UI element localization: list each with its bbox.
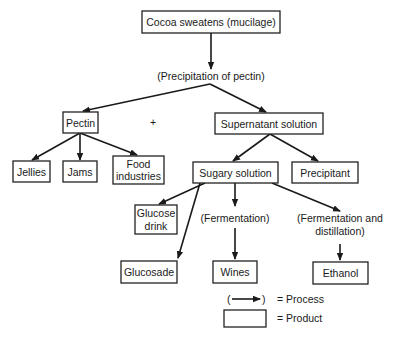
- node-label: Wines: [220, 266, 249, 278]
- edges: [32, 33, 340, 260]
- legend-process: ( ) = Process: [227, 293, 324, 305]
- node-label: Supernatant solution: [221, 118, 317, 130]
- arrow-supernatant-to-precipitant: [270, 134, 318, 161]
- node-sugary-solution: Sugary solution: [193, 162, 278, 183]
- process-ferm-distill-line2: distillation): [315, 225, 365, 237]
- arrow-pectin-to-food-industries: [80, 133, 137, 155]
- node-cocoa-sweatens: Cocoa sweatens (mucilage): [142, 11, 280, 33]
- legend-paren-close: ): [262, 293, 266, 305]
- node-label-line1: Food: [127, 158, 151, 170]
- legend-product-label: = Product: [277, 312, 322, 324]
- legend-box-icon: [224, 310, 266, 327]
- node-label: Jams: [67, 166, 92, 178]
- node-supernatant-solution: Supernatant solution: [215, 113, 323, 134]
- node-label: Jellies: [17, 166, 46, 178]
- plus-sign: +: [150, 116, 156, 128]
- node-label: Ethanol: [323, 267, 359, 279]
- node-label-line1: Glucose: [137, 207, 176, 219]
- node-label: Precipitant: [300, 167, 350, 179]
- arrow-sugary-to-ferm-distill: [272, 183, 340, 211]
- arrow-sugary-to-glucose-drink: [159, 183, 205, 204]
- node-label: Pectin: [66, 117, 95, 129]
- node-jellies: Jellies: [13, 161, 50, 182]
- node-glucose-drink: Glucose drink: [135, 205, 177, 234]
- legend-paren-open: (: [227, 293, 231, 305]
- node-label: Glucosade: [124, 266, 174, 278]
- arrow-to-supernatant: [210, 84, 266, 112]
- node-label-line2: industries: [116, 170, 161, 182]
- legend: ( ) = Process = Product: [224, 293, 324, 327]
- arrow-supernatant-to-sugary: [233, 134, 270, 161]
- node-jams: Jams: [63, 161, 97, 182]
- legend-product: = Product: [224, 310, 322, 327]
- node-wines: Wines: [213, 261, 257, 283]
- arrow-to-pectin: [83, 84, 210, 111]
- legend-process-label: = Process: [277, 293, 324, 305]
- node-food-industries: Food industries: [113, 156, 164, 184]
- node-glucosade: Glucosade: [121, 261, 177, 283]
- node-ethanol: Ethanol: [313, 262, 368, 284]
- process-precipitation-label: (Precipitation of pectin): [157, 70, 264, 82]
- arrow-pectin-to-jellies: [32, 133, 80, 160]
- process-fermentation-label: (Fermentation): [201, 212, 270, 224]
- node-precipitant: Precipitant: [292, 162, 358, 183]
- node-label: Sugary solution: [199, 167, 272, 179]
- pectin-process-flow-diagram: Cocoa sweatens (mucilage) (Precipitation…: [0, 0, 393, 337]
- node-label: Cocoa sweatens (mucilage): [146, 16, 276, 28]
- node-label-line2: drink: [145, 220, 169, 232]
- node-pectin: Pectin: [63, 112, 98, 133]
- process-ferm-distill-line1: (Fermentation and: [297, 212, 383, 224]
